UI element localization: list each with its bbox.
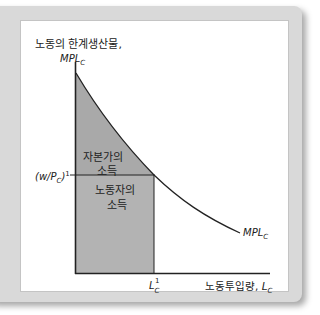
wage-label: (w/PC)1 [35, 170, 70, 185]
x-axis-title: 노동투입량, LC [205, 280, 273, 295]
y-axis-title: 노동의 한계생산물, [35, 38, 122, 51]
y-axis-var: MPLC [60, 53, 85, 67]
curve-label: MPLC [243, 227, 268, 241]
employment-label-sup: 1 [155, 277, 159, 285]
mpl-chart: 노동의 한계생산물, MPLC 자본가의 소득 노동자의 소득 (w/PC)1 … [0, 0, 320, 315]
labor-income-label-1: 노동자의 [95, 184, 135, 197]
capital-income-label-2: 소득 [97, 165, 117, 178]
labor-income-label-2: 소득 [107, 199, 127, 212]
capital-income-label-1: 자본가의 [83, 151, 123, 164]
